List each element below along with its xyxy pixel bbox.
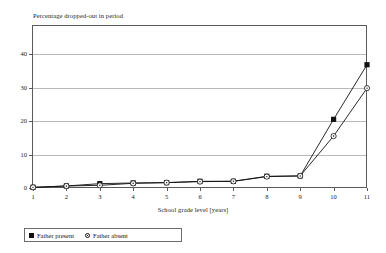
open-circle-icon [85,233,90,238]
x-tick-mark [300,188,301,191]
gridline [33,155,366,156]
x-tick-label: 11 [358,193,376,200]
y-tick-label: 10 [5,151,27,158]
y-tick-mark [29,54,32,55]
y-tick-mark [29,88,32,89]
x-tick-label: 2 [57,193,75,200]
filled-square-icon [29,233,34,238]
x-tick-mark [66,188,67,191]
x-tick-label: 1 [24,193,42,200]
x-tick-mark [267,188,268,191]
y-axis-title: Percentage dropped-out in period [33,12,123,19]
gridline [33,54,366,55]
y-tick-label: 40 [5,50,27,57]
y-tick-mark [29,121,32,122]
x-tick-label: 10 [325,193,343,200]
x-tick-label: 3 [91,193,109,200]
y-tick-label: 0 [5,184,27,191]
y-tick-label: 20 [5,117,27,124]
x-tick-mark [367,188,368,191]
y-tick-label: 30 [5,84,27,91]
x-tick-label: 4 [124,193,142,200]
x-tick-mark [334,188,335,191]
x-tick-mark [133,188,134,191]
x-tick-mark [33,188,34,191]
legend-label: Father absent [93,232,128,239]
x-tick-label: 6 [191,193,209,200]
legend-entry: Father present [29,232,74,239]
y-tick-mark [29,155,32,156]
chart-legend: Father presentFather absent [24,228,182,242]
x-tick-mark [200,188,201,191]
legend-label: Father present [37,232,74,239]
gridline [33,121,366,122]
plot-area [32,25,367,188]
y-tick-mark [29,188,32,189]
x-tick-mark [233,188,234,191]
x-tick-label: 5 [158,193,176,200]
x-tick-mark [167,188,168,191]
x-tick-mark [100,188,101,191]
gridline [33,88,366,89]
x-axis-title: School grade level [years] [0,206,386,213]
x-tick-label: 7 [224,193,242,200]
chart-container: Percentage dropped-out in period 0102030… [0,0,386,253]
x-tick-label: 8 [258,193,276,200]
x-tick-label: 9 [291,193,309,200]
legend-entry: Father absent [85,232,128,239]
